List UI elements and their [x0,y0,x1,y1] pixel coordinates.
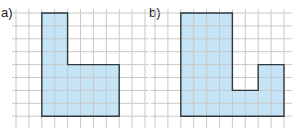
grid-diagrams [0,0,292,128]
diagram-a [12,9,149,128]
grid-lines [12,9,149,128]
diagram-b [151,9,292,128]
